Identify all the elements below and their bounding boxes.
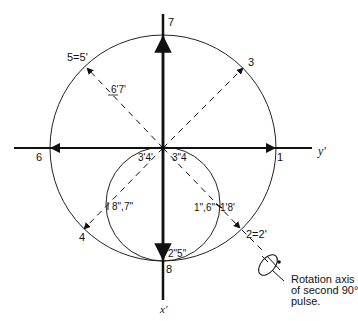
rotation-axis-note: Rotation axis of second 90° pulse. (291, 274, 358, 307)
note-line-3: pulse. (291, 296, 358, 307)
label-x-prime: x' (160, 304, 167, 315)
label-2pp5pp: 2"5" (168, 249, 186, 259)
label-1pp6pp: 1",6" (194, 203, 215, 213)
label-8pp7pp: 8",7" (112, 202, 133, 212)
label-4: 4 (79, 232, 85, 243)
label-5: 5=5' (67, 52, 88, 63)
note-pointer (272, 270, 284, 281)
label-3pp4: 3"4 (172, 153, 187, 163)
label-3p4p: 3'4' (138, 153, 153, 163)
label-6: 6 (36, 152, 42, 163)
label-3: 3 (248, 57, 254, 68)
label-6p7p: 6'7' (111, 85, 126, 95)
label-y-prime: y' (318, 145, 326, 157)
label-1p8p: 1'8' (220, 203, 235, 213)
label-2: 2=2' (246, 229, 267, 240)
label-1: 1 (277, 152, 283, 163)
dashed-arrow-3 (163, 68, 243, 148)
dashed-arrow-5 (87, 68, 163, 148)
label-7: 7 (168, 17, 174, 28)
label-8: 8 (166, 264, 172, 275)
